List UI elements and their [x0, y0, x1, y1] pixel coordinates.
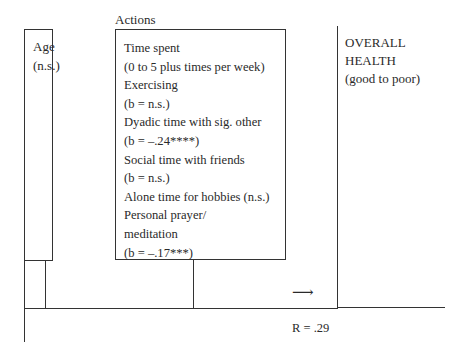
actions-item: Dyadic time with sig. other	[124, 113, 270, 132]
actions-item: (b = n.s.)	[124, 169, 270, 188]
outcome-line-2: HEALTH	[345, 52, 420, 70]
actions-item: (b = –.24****)	[124, 132, 270, 151]
age-box: Age (n.s.)	[24, 29, 53, 261]
actions-item: (0 to 5 plus times per week)	[124, 58, 270, 77]
age-stat: (n.s.)	[33, 57, 60, 76]
actions-item: Alone time for hobbies (n.s.)	[124, 188, 270, 207]
outcome-line-1: OVERALL	[345, 34, 420, 52]
r-value-label: R = .29	[292, 319, 329, 338]
actions-item: Time spent	[124, 39, 270, 58]
actions-box: Time spent (0 to 5 plus times per week) …	[115, 29, 286, 260]
base-line-right	[337, 307, 445, 308]
actions-item: Personal prayer/	[124, 206, 270, 225]
actions-item: Social time with friends	[124, 151, 270, 170]
right-arrow-icon: ⟶	[292, 284, 314, 300]
actions-title: Actions	[115, 11, 155, 30]
outcome-line-3: (good to poor)	[345, 70, 420, 88]
actions-item: Exercising	[124, 76, 270, 95]
actions-list: Time spent (0 to 5 plus times per week) …	[124, 39, 270, 262]
actions-item: meditation	[124, 225, 270, 244]
base-line-left	[24, 308, 338, 309]
outcome-label: OVERALL HEALTH (good to poor)	[345, 34, 420, 88]
age-connector-line	[45, 260, 46, 309]
actions-connector-line	[193, 259, 194, 309]
actions-item: (b = –.17***)	[124, 244, 270, 263]
left-vertical-line	[24, 260, 25, 342]
age-label-group: Age (n.s.)	[33, 38, 60, 75]
outcome-divider-line	[337, 26, 338, 308]
age-label: Age	[33, 38, 60, 57]
actions-item: (b = n.s.)	[124, 95, 270, 114]
